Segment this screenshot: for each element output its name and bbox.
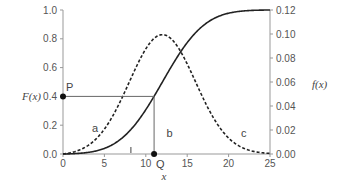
y-right-tick-label: 0.12	[276, 5, 296, 16]
y-left-tick-label: 1.0	[43, 5, 57, 16]
y-left-tick-label: 0.2	[43, 120, 57, 131]
x-tick-label: 10	[140, 158, 152, 169]
annotation-a: a	[92, 122, 99, 134]
point-p-label: P	[66, 81, 73, 93]
x-tick-label: 0	[60, 158, 66, 169]
point-q-marker	[151, 151, 157, 157]
x-axis-label: x	[161, 170, 167, 182]
y-right-axis-label: f(x)	[312, 78, 328, 91]
y-right-tick-label: 0.10	[276, 29, 296, 40]
y-left-tick-label: 0.8	[43, 33, 57, 44]
y-left-tick-label: 0.4	[43, 91, 57, 102]
chart-container: 05101520250.00.20.40.60.81.00.000.020.04…	[0, 0, 338, 188]
x-tick-label: 20	[223, 158, 235, 169]
x-tick-label: 15	[182, 158, 194, 169]
cdf-pdf-chart: 05101520250.00.20.40.60.81.00.000.020.04…	[0, 0, 338, 188]
y-left-axis-label: F(x)	[21, 90, 41, 103]
y-right-tick-label: 0.06	[276, 77, 296, 88]
x-tick-label: 5	[102, 158, 108, 169]
annotation-c: c	[241, 127, 247, 139]
point-p-marker	[60, 93, 66, 99]
y-right-tick-label: 0.02	[276, 125, 296, 136]
y-right-tick-label: 0.04	[276, 101, 296, 112]
y-right-tick-label: 0.00	[276, 149, 296, 160]
y-right-tick-label: 0.08	[276, 53, 296, 64]
x-tick-label: 25	[264, 158, 276, 169]
annotation-b: b	[167, 127, 173, 139]
y-left-tick-label: 0.6	[43, 62, 57, 73]
y-left-tick-label: 0.0	[43, 149, 57, 160]
point-q-label: Q	[156, 158, 165, 170]
